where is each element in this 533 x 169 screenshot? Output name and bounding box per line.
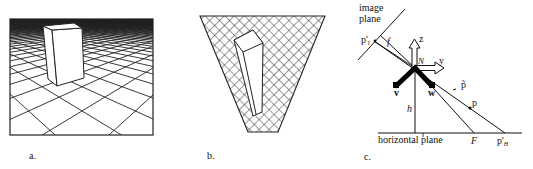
camera-geometry-diagram: image plane p'I f z y N v w p̃ p h horiz… xyxy=(350,0,533,169)
panel-b: b. xyxy=(180,0,350,169)
label-y: y xyxy=(439,55,444,66)
p-tilde-marker xyxy=(453,89,456,90)
label-F: F xyxy=(470,135,478,146)
label-h: h xyxy=(407,103,412,114)
label-p: p xyxy=(472,97,477,108)
label-p-prime-I: p'I xyxy=(361,34,370,46)
point-p-prime-I xyxy=(374,40,377,43)
label-v: v xyxy=(394,87,399,98)
block xyxy=(43,23,84,86)
panel-a: a. xyxy=(0,0,180,169)
caption-a: a. xyxy=(29,150,36,161)
panel-c: image plane p'I f z y N v w p̃ p h horiz… xyxy=(350,0,533,169)
focal-line xyxy=(374,41,415,68)
caption-c: c. xyxy=(364,151,371,162)
bird-eye-remap-figure xyxy=(180,0,350,169)
label-plane: plane xyxy=(359,13,381,24)
caption-b: b. xyxy=(207,150,215,161)
label-z: z xyxy=(419,33,424,44)
label-image: image xyxy=(359,2,384,13)
label-p-prime-H: p'H xyxy=(497,135,509,147)
label-N: N xyxy=(417,56,425,66)
label-p-tilde: p̃ xyxy=(461,79,466,90)
label-horizontal-plane: horizontal plane xyxy=(378,134,443,145)
perspective-grid-figure xyxy=(0,0,180,169)
label-w: w xyxy=(428,87,436,98)
optical-axis xyxy=(380,35,415,68)
